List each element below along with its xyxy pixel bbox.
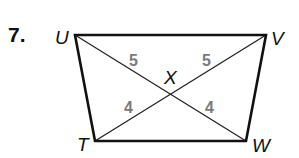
segment-label-tx: 4 bbox=[124, 99, 133, 116]
vertex-label-u: U bbox=[55, 27, 69, 48]
diagonal-uw bbox=[75, 35, 246, 141]
segment-label-vx: 5 bbox=[202, 52, 211, 69]
diagonal-vt bbox=[95, 35, 266, 141]
vertex-label-w: W bbox=[252, 135, 272, 156]
trapezoid-diagram: 7. U V T W X 5 5 4 4 bbox=[0, 0, 299, 158]
segment-label-wx: 4 bbox=[205, 99, 214, 116]
vertex-label-v: V bbox=[271, 28, 286, 49]
intersection-label-x: X bbox=[163, 67, 178, 88]
vertex-label-t: T bbox=[77, 134, 90, 155]
problem-number: 7. bbox=[8, 23, 26, 46]
quadrilateral-outline bbox=[75, 35, 266, 141]
segment-label-ux: 5 bbox=[129, 52, 138, 69]
